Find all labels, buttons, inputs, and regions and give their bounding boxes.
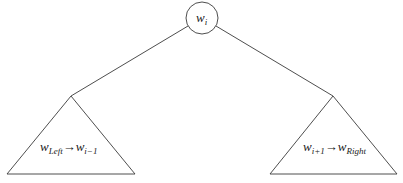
edge-root-right — [216, 26, 333, 96]
right-subtree-triangle — [270, 96, 397, 174]
right-from-subscript: i+1 — [312, 146, 325, 156]
left-to-subscript: i−1 — [84, 146, 97, 156]
right-to-subscript: Right — [345, 146, 366, 156]
right-subtree: wi+1→wRight — [270, 96, 397, 174]
root-node: wi — [186, 2, 218, 34]
root-label-base: w — [196, 10, 205, 25]
right-to-base: w — [338, 139, 347, 154]
left-from-base: w — [40, 139, 49, 154]
right-arrow: → — [325, 139, 338, 154]
left-from-subscript: Left — [48, 146, 64, 156]
tree-diagram: wi wLeft→wi−1 wi+1→wRight — [0, 0, 403, 183]
left-to-base: w — [76, 139, 85, 154]
right-from-base: w — [303, 139, 312, 154]
left-subtree: wLeft→wi−1 — [7, 96, 135, 174]
edge-root-left — [71, 26, 188, 96]
left-subtree-triangle — [7, 96, 135, 174]
left-arrow: → — [63, 139, 76, 154]
